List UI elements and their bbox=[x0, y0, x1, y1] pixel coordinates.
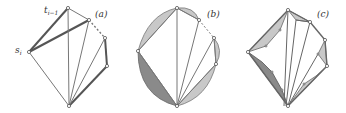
panel-c-graph bbox=[248, 10, 327, 106]
label-s-i: si bbox=[15, 45, 22, 56]
panel-a: ti−1 si (a) (b) bbox=[0, 0, 346, 113]
panel-b-label: (b) bbox=[207, 9, 220, 19]
panel-a-label: (a) bbox=[95, 9, 108, 19]
label-t-prev: ti−1 bbox=[44, 5, 58, 16]
panel-a-graph bbox=[29, 8, 107, 106]
panel-c-label: (c) bbox=[317, 9, 330, 19]
panel-b-graph bbox=[138, 8, 220, 106]
